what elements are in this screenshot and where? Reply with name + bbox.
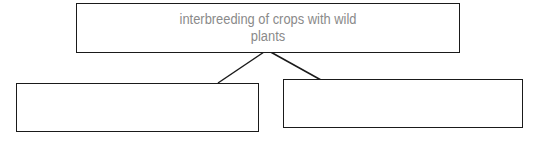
connector-right bbox=[267, 50, 321, 80]
child-box-left[interactable] bbox=[16, 83, 259, 132]
child-box-right[interactable] bbox=[283, 79, 523, 128]
root-label: interbreeding of crops with wild plants bbox=[167, 11, 369, 45]
connector-left bbox=[218, 50, 267, 83]
root-box: interbreeding of crops with wild plants bbox=[76, 3, 460, 53]
